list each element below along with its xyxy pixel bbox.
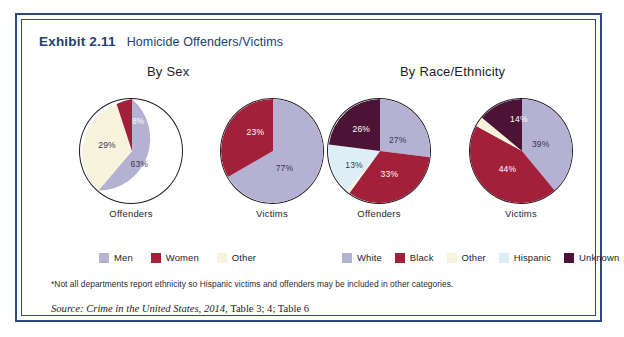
legend-swatch-other	[447, 253, 457, 263]
legend-by-sex: Men Women Other	[99, 252, 274, 263]
pie-chart-sex-offenders: 63% 8% 29% Offenders	[79, 98, 183, 204]
pie-slices	[80, 99, 183, 203]
legend-swatch-hispanic	[499, 253, 509, 263]
source-line: Source: Crime in the United States, 2014…	[51, 303, 309, 314]
exhibit-frame: Exhibit 2.11 Homicide Offenders/Victims …	[15, 13, 602, 322]
group-heading-by-sex: By Sex	[147, 64, 189, 79]
legend-item: Men	[99, 252, 133, 263]
source-roman: Table 3; 4; Table 6	[228, 303, 309, 314]
legend-label: Hispanic	[514, 252, 551, 263]
pie-caption: Victims	[469, 208, 573, 219]
legend-item: White	[342, 252, 382, 263]
legend-item: Other	[217, 252, 256, 263]
legend-label: White	[357, 252, 382, 263]
exhibit-caption: Homicide Offenders/Victims	[127, 35, 283, 49]
pie-graphic	[79, 98, 183, 204]
legend-swatch-women	[151, 253, 161, 263]
legend-item: Black	[395, 252, 434, 263]
pie-chart-race-victims: 39% 44% 14% Victims	[469, 98, 573, 204]
exhibit-title: Exhibit 2.11 Homicide Offenders/Victims	[39, 34, 283, 49]
legend-swatch-other	[217, 253, 227, 263]
slice-unknown	[329, 99, 380, 151]
legend-swatch-men	[99, 253, 109, 263]
legend-swatch-unknown	[564, 253, 574, 263]
legend-swatch-white	[342, 253, 352, 263]
legend-swatch-black	[395, 253, 405, 263]
pie-graphic	[469, 98, 573, 204]
slice-white	[380, 99, 431, 158]
legend-label: Other	[462, 252, 486, 263]
legend-label: Unknown	[579, 252, 619, 263]
footnote: *Not all departments report ethnicity so…	[51, 279, 453, 289]
exhibit-number: Exhibit 2.11	[39, 34, 116, 49]
legend-item: Unknown	[564, 252, 619, 263]
source-italic: Source: Crime in the United States, 2014…	[51, 303, 228, 314]
legend-label: Women	[166, 252, 199, 263]
pie-chart-sex-victims: 77% 23% Victims	[220, 98, 324, 204]
legend-by-race: White Black Other Hispanic Unknown	[342, 252, 624, 263]
pie-graphic	[327, 98, 431, 204]
group-heading-by-race: By Race/Ethnicity	[400, 64, 505, 79]
pie-caption: Offenders	[79, 208, 183, 219]
legend-item: Hispanic	[499, 252, 551, 263]
pie-chart-race-offenders: 27% 33% 13% 26% Offenders	[327, 98, 431, 204]
pie-slices	[221, 99, 324, 203]
pie-slices	[328, 99, 431, 203]
pie-graphic	[220, 98, 324, 204]
legend-item: Women	[151, 252, 199, 263]
legend-item: Other	[447, 252, 486, 263]
legend-label: Other	[232, 252, 256, 263]
legend-label: Men	[114, 252, 133, 263]
legend-label: Black	[410, 252, 434, 263]
pie-slices	[470, 99, 573, 203]
pie-caption: Victims	[220, 208, 324, 219]
pie-caption: Offenders	[327, 208, 431, 219]
